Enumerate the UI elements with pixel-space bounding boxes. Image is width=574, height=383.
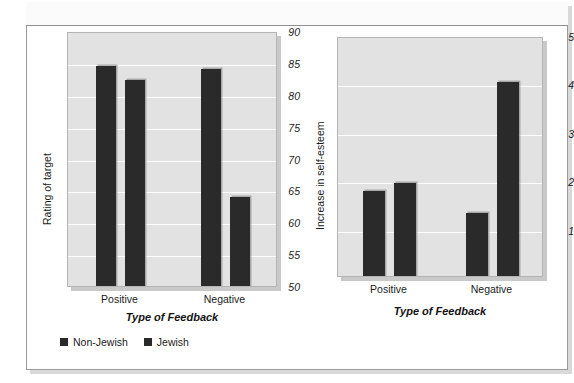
y-tick-label: 2 [542,177,574,188]
legend-swatch-icon [144,338,152,346]
y-tick-label: 75 [238,122,300,133]
legend: Non-JewishJewish [60,336,198,348]
x-tick-label: Positive [70,293,170,305]
y-tick-label: 50 [238,282,300,293]
x-axis-label-left: Type of Feedback [67,311,277,323]
legend-label: Jewish [157,336,189,348]
x-tick-label: Negative [442,283,542,295]
chart-increase-in-self-esteem: 12345 Increase in self-esteem PositiveNe… [300,0,574,383]
legend-entry: Non-Jewish [60,336,128,348]
y-tick-label: 3 [542,129,574,140]
bar [497,82,519,277]
bar [201,69,221,287]
bar [363,191,385,277]
x-tick-label: Positive [339,283,439,295]
x-tick-label: Negative [175,293,275,305]
y-tick-label: 5 [542,32,574,43]
legend-swatch-icon [60,338,68,346]
bar [96,66,116,288]
y-axis-label-right: Increase in self-esteem [314,121,326,230]
figure-root: 505560657075808590 Rating of target Posi… [0,0,574,383]
y-tick-label: 55 [238,250,300,261]
y-tick-label: 85 [238,59,300,70]
y-tick-label: 65 [238,186,300,197]
legend-label: Non-Jewish [73,336,128,348]
legend-entry: Jewish [144,336,189,348]
plot-area-right [337,37,543,277]
bar [394,183,416,277]
chart-rating-of-target: 505560657075808590 Rating of target Posi… [0,0,300,383]
bar [125,80,145,287]
y-axis-label-left: Rating of target [41,153,53,225]
y-tick-label: 70 [238,154,300,165]
y-tick-label: 80 [238,91,300,102]
x-axis-label-right: Type of Feedback [337,305,543,317]
y-tick-label: 90 [238,27,300,38]
bar [466,213,488,277]
y-tick-label: 60 [238,218,300,229]
y-tick-label: 4 [542,80,574,91]
bar [230,197,250,287]
y-tick-label: 1 [542,226,574,237]
